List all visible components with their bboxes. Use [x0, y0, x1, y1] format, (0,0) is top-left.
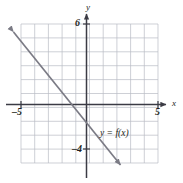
- x-tick-label-positive-five: 5: [155, 107, 160, 117]
- x-axis-label: x: [172, 99, 176, 108]
- y-tick-label-negative-four: –4: [72, 144, 82, 154]
- function-equation-label: y = f(x): [100, 129, 129, 139]
- y-axis-label: y: [86, 3, 90, 12]
- y-tick-label-six: 6: [75, 18, 80, 28]
- grid-lines: [21, 24, 158, 163]
- coordinate-plane-figure: x y –5 5 6 –4 y = f(x): [0, 0, 183, 183]
- x-tick-label-negative-five: –5: [12, 107, 22, 117]
- graph-canvas: [0, 0, 183, 183]
